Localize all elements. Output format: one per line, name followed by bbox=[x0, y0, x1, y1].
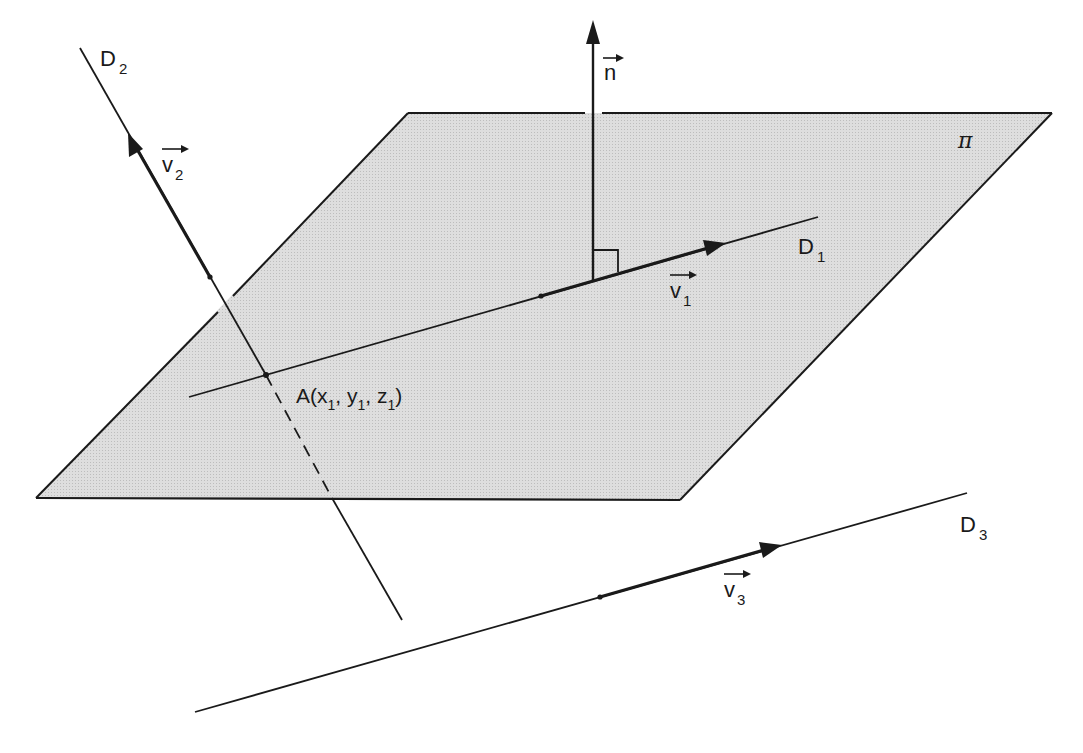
line-d3: D3 v3 bbox=[195, 493, 987, 712]
diagram-canvas: π D1 v1 n D2 v2 bbox=[0, 0, 1083, 753]
line-d2-lower bbox=[332, 498, 402, 620]
plane-pi: π bbox=[36, 113, 1052, 500]
line-d2-point bbox=[207, 274, 212, 279]
vector-v3-label: v3 bbox=[724, 570, 751, 608]
normal-vector-arrowhead bbox=[586, 20, 600, 44]
plane-fill bbox=[36, 113, 1052, 500]
plane-label: π bbox=[957, 128, 973, 153]
vector-v2-shaft bbox=[137, 149, 210, 277]
normal-vector-label: n bbox=[603, 54, 624, 85]
svg-text:v3: v3 bbox=[724, 577, 745, 608]
point-a-dot bbox=[263, 372, 269, 378]
vector-v3-arrowhead bbox=[759, 542, 782, 558]
line-d2-label: D2 bbox=[100, 46, 127, 77]
line-d3-point bbox=[597, 594, 602, 599]
line-d1-point bbox=[538, 293, 543, 298]
svg-text:n: n bbox=[604, 60, 616, 85]
svg-text:v2: v2 bbox=[162, 152, 183, 183]
vector-v2-label: v2 bbox=[162, 145, 189, 183]
line-d3-label: D3 bbox=[960, 512, 987, 543]
line-d3-path bbox=[195, 493, 967, 712]
